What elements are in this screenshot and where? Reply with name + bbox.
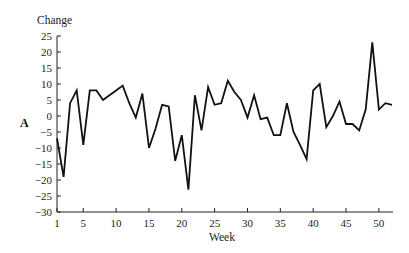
x-axis-ticks: 15101520253035404550	[54, 208, 385, 229]
y-tick-label: −15	[35, 158, 53, 170]
x-tick-label: 50	[373, 217, 385, 229]
y-tick-label: −20	[35, 174, 53, 186]
y-tick-label: 20	[41, 46, 53, 58]
x-tick-label: 5	[81, 217, 87, 229]
x-tick-label: 45	[341, 217, 353, 229]
data-series-line	[57, 42, 392, 189]
y-tick-label: −5	[40, 126, 52, 138]
y-axis-title: Change	[37, 14, 72, 27]
y-tick-label: 25	[41, 30, 53, 42]
x-tick-label: 20	[176, 217, 188, 229]
x-tick-label: 10	[111, 217, 123, 229]
y-tick-label: 10	[41, 78, 53, 90]
x-axis-title: Week	[209, 231, 235, 243]
y-tick-label: −10	[35, 142, 53, 154]
x-tick-label: 15	[143, 217, 155, 229]
y-tick-label: 15	[41, 62, 53, 74]
x-tick-label: 25	[209, 217, 221, 229]
x-tick-label: 40	[308, 217, 320, 229]
x-tick-label: 30	[242, 217, 254, 229]
y-tick-label: 0	[47, 110, 53, 122]
y-tick-label: 5	[47, 94, 53, 106]
x-tick-label: 1	[54, 217, 60, 229]
y-tick-label: −30	[35, 206, 53, 218]
y-tick-label: −25	[35, 190, 53, 202]
x-tick-label: 35	[275, 217, 287, 229]
panel-label: A	[20, 116, 29, 130]
line-chart: Change A 2520151050−5−10−15−20−25−30 151…	[0, 0, 409, 253]
